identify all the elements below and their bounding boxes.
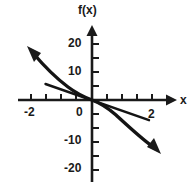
y-tick-label-neg20: -20 <box>64 162 81 174</box>
y-axis-arrowhead-icon <box>87 25 98 36</box>
x-tick-label-2: 2 <box>148 108 155 120</box>
x-tick-label-neg2: -2 <box>24 106 35 118</box>
x-axis-title: x <box>180 94 187 106</box>
x-axis-arrowhead-icon <box>166 95 177 106</box>
y-tick-label-10: 10 <box>68 65 81 77</box>
y-axis-title: f(x) <box>78 4 97 16</box>
curve-end-arrowhead-icon <box>147 138 161 154</box>
graph-canvas <box>0 0 192 188</box>
y-tick-label-20: 20 <box>68 37 81 49</box>
y-tick-label-0: 0 <box>76 106 83 118</box>
y-tick-label-neg10: -10 <box>64 134 81 146</box>
function-graph: f(x) x 20 10 0 -10 -20 -2 2 <box>0 0 192 188</box>
